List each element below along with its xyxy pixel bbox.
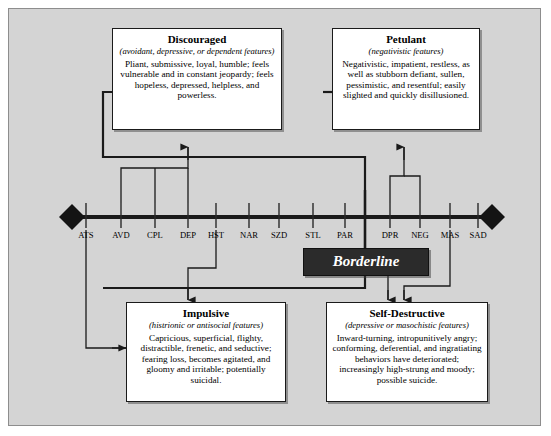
axis-label-dpr: DPR bbox=[373, 231, 407, 240]
axis-label-cpl: CPL bbox=[138, 231, 172, 240]
node-petulant[interactable]: Petulant (negativistic features) Negativ… bbox=[332, 28, 480, 130]
axis-label-hst: HST bbox=[199, 231, 233, 240]
node-self-destructive-title: Self-Destructive bbox=[332, 307, 482, 320]
axis-label-par: PAR bbox=[328, 231, 362, 240]
axis-label-stl: STL bbox=[296, 231, 330, 240]
axis-label-szd: SZD bbox=[262, 231, 296, 240]
node-impulsive-body: Capricious, superficial, flighty, distra… bbox=[132, 333, 280, 386]
axis-endpoint-left-diamond bbox=[59, 204, 85, 230]
node-self-destructive-subtitle: (depressive or masochistic features) bbox=[332, 320, 482, 331]
node-petulant-title: Petulant bbox=[338, 33, 474, 46]
axis-endpoint-right-diamond bbox=[479, 204, 505, 230]
node-impulsive-subtitle: (histrionic or antisocial features) bbox=[132, 320, 280, 331]
node-self-destructive-body: Inward-turning, intropunitively angry; c… bbox=[332, 333, 482, 386]
node-discouraged-title: Discouraged bbox=[118, 33, 276, 46]
node-self-destructive[interactable]: Self-Destructive (depressive or masochis… bbox=[326, 302, 488, 402]
node-impulsive[interactable]: Impulsive (histrionic or antisocial feat… bbox=[126, 302, 286, 402]
node-discouraged-body: Pliant, submissive, loyal, humble; feels… bbox=[118, 59, 276, 101]
node-petulant-body: Negativistic, impatient, restless, as we… bbox=[338, 59, 474, 101]
axis-label-neg: NEG bbox=[403, 231, 437, 240]
center-banner-borderline: Borderline bbox=[303, 248, 429, 276]
spectrum-axis bbox=[59, 203, 505, 230]
axis-label-avd: AVD bbox=[104, 231, 138, 240]
connectors-upper bbox=[121, 147, 420, 203]
node-discouraged-subtitle: (avoidant, depressive, or dependent feat… bbox=[118, 46, 276, 57]
diagram-canvas: Discouraged (avoidant, depressive, or de… bbox=[0, 0, 551, 436]
node-discouraged[interactable]: Discouraged (avoidant, depressive, or de… bbox=[112, 28, 282, 130]
axis-label-ats: ATS bbox=[69, 231, 103, 240]
axis-label-nar: NAR bbox=[232, 231, 266, 240]
axis-label-sad: SAD bbox=[461, 231, 495, 240]
node-petulant-subtitle: (negativistic features) bbox=[338, 46, 474, 57]
node-impulsive-title: Impulsive bbox=[132, 307, 280, 320]
